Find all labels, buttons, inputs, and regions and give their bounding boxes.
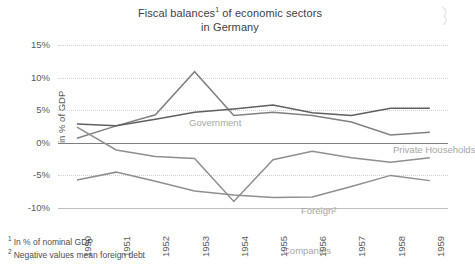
decorative-corner-mark (440, 5, 452, 27)
y-tick-label-neg5: -5% (6, 169, 50, 180)
y-tick-label-10: 10% (6, 71, 50, 82)
series-line-companies (77, 172, 430, 197)
chart-title-line2: in Germany (201, 21, 259, 33)
footnote-1-marker: 1 (8, 235, 12, 242)
footnote-1: 1In % of nominal GDP (8, 236, 448, 249)
y-tick-label-neg10: -10% (6, 202, 50, 213)
footnotes: 1In % of nominal GDP 2Negative values me… (8, 236, 448, 262)
series-label-government: Government (189, 117, 241, 128)
series-lines (58, 45, 448, 208)
series-line-foreign (77, 127, 430, 201)
footnote-2: 2Negative values mean foreign debt (8, 249, 448, 262)
gridline--10 (58, 208, 448, 209)
y-tick-label-5: 5% (6, 104, 50, 115)
footnote-2-marker: 2 (8, 248, 12, 255)
y-tick-label-0: 0% (6, 136, 50, 147)
series-label-foreign: Foreign² (301, 205, 336, 216)
y-tick-label-15: 15% (6, 39, 50, 50)
chart-title-line1-main: Fiscal balances (138, 7, 215, 19)
series-line-government (77, 72, 430, 139)
chart-title: Fiscal balances1 of economic sectors in … (60, 6, 400, 34)
footnote-2-text: Negative values mean foreign debt (14, 250, 145, 260)
chart-title-line1-rest: of economic sectors (219, 7, 322, 19)
series-label-private-households: Private Households (393, 144, 475, 155)
plot-area: in % of GDP 15%10%5%0%-5%-10% Government… (58, 45, 448, 208)
footnote-1-text: In % of nominal GDP (14, 237, 93, 247)
